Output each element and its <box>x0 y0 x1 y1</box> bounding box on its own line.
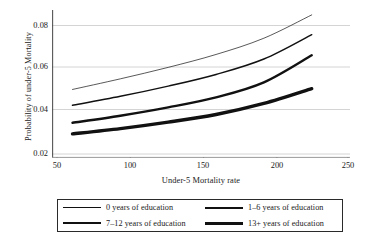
x-axis-tick-labels: 50 100 150 200 250 <box>0 161 365 175</box>
y-tick-label: 0.06 <box>14 62 48 71</box>
data-series-line <box>73 35 312 106</box>
legend-line-icon <box>205 204 243 212</box>
legend-grid: 0 years of education 1–6 years of educat… <box>58 200 342 231</box>
x-tick-label: 100 <box>110 161 150 171</box>
x-tick-label: 250 <box>328 161 365 171</box>
legend-item: 7–12 years of education <box>58 216 200 232</box>
legend-line-icon <box>205 219 243 227</box>
legend-item: 0 years of education <box>58 200 200 216</box>
legend-item-label: 7–12 years of education <box>106 219 186 228</box>
legend-item-label: 0 years of education <box>106 203 173 212</box>
plot-svg <box>52 8 350 158</box>
legend-item-label: 13+ years of education <box>248 219 324 228</box>
legend-item-label: 1–6 years of education <box>248 203 323 212</box>
legend-item: 13+ years of education <box>200 216 342 232</box>
chart-legend: 0 years of education 1–6 years of educat… <box>57 199 343 232</box>
legend-line-icon <box>63 219 101 227</box>
y-tick-label: 0.04 <box>14 105 48 114</box>
x-tick-label: 200 <box>257 161 297 171</box>
x-tick-label: 150 <box>183 161 223 171</box>
y-axis-tick-labels: 0.08 0.06 0.04 0.02 <box>10 0 48 245</box>
data-series-group <box>73 15 312 134</box>
chart-figure: Probability of under-5 Mortality 0.08 0.… <box>0 0 365 245</box>
x-axis-label: Under-5 Mortality rate <box>52 176 350 185</box>
data-series-line <box>73 89 312 134</box>
data-series-line <box>73 15 312 90</box>
y-tick-label: 0.02 <box>14 149 48 158</box>
plot-area <box>52 8 350 158</box>
data-series-line <box>73 55 312 123</box>
y-tick-label: 0.08 <box>14 21 48 30</box>
legend-item: 1–6 years of education <box>200 200 342 216</box>
legend-line-icon <box>63 204 101 212</box>
x-tick-label: 50 <box>37 161 77 171</box>
